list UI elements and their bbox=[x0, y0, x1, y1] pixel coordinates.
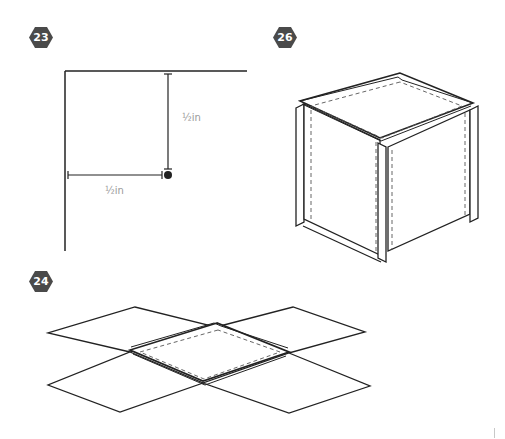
step-number: 26 bbox=[273, 27, 297, 48]
vertical-dimension-label: ½in bbox=[182, 112, 201, 123]
scrollbar-mark bbox=[494, 428, 495, 438]
step-24-diagram bbox=[48, 307, 370, 413]
horizontal-dimension-label: ½in bbox=[105, 185, 124, 196]
right-side-flap bbox=[470, 106, 478, 222]
step-26-diagram bbox=[296, 73, 478, 262]
step-number: 24 bbox=[29, 271, 53, 292]
step-badge-24: 24 bbox=[29, 271, 53, 292]
front-edge-flap bbox=[378, 143, 386, 262]
left-side-flap bbox=[296, 104, 304, 226]
mark-point bbox=[164, 171, 172, 179]
step-23-diagram bbox=[65, 71, 247, 251]
step-number: 23 bbox=[29, 27, 53, 48]
step-badge-26: 26 bbox=[273, 27, 297, 48]
instruction-diagram bbox=[0, 0, 505, 439]
step-badge-23: 23 bbox=[29, 27, 53, 48]
